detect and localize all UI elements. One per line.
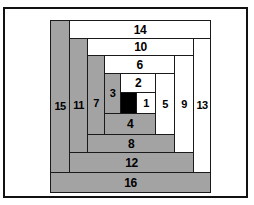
- log-cabin-block: 12345678910111213141516: [0, 0, 254, 205]
- log-12: 12: [69, 152, 194, 173]
- log-3: 3: [104, 73, 121, 114]
- log-8-label: 8: [128, 138, 134, 150]
- log-1-label: 1: [143, 98, 149, 109]
- log-5: 5: [155, 73, 175, 135]
- log-16: 16: [50, 172, 211, 193]
- log-5-label: 5: [162, 99, 168, 110]
- log-10-label: 10: [134, 41, 146, 53]
- log-13: 13: [193, 38, 211, 173]
- log-16-label: 16: [124, 177, 136, 189]
- log-11-label: 11: [73, 100, 84, 111]
- diagram-canvas: 12345678910111213141516: [0, 0, 254, 205]
- log-15: 15: [50, 20, 70, 192]
- log-10: 10: [87, 38, 194, 56]
- log-8: 8: [87, 134, 175, 153]
- center-square: [120, 92, 137, 114]
- log-2: 2: [120, 73, 156, 93]
- log-7-label: 7: [93, 98, 99, 109]
- log-6-label: 6: [136, 59, 142, 71]
- log-2-label: 2: [135, 77, 141, 89]
- log-4-label: 4: [127, 118, 133, 130]
- log-6: 6: [104, 55, 175, 74]
- log-13-label: 13: [196, 100, 207, 111]
- log-1: 1: [136, 92, 156, 114]
- log-12-label: 12: [125, 157, 137, 169]
- log-9: 9: [174, 55, 194, 153]
- log-9-label: 9: [181, 99, 187, 110]
- log-3-label: 3: [110, 88, 116, 99]
- log-4: 4: [104, 113, 156, 135]
- log-14: 14: [69, 20, 211, 39]
- log-15-label: 15: [54, 101, 65, 112]
- log-14-label: 14: [134, 24, 146, 36]
